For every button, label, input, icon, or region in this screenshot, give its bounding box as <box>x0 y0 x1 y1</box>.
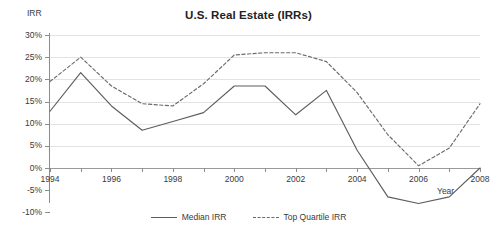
legend-label: Top Quartile IRR <box>284 212 347 222</box>
legend-item[interactable]: Median IRR <box>151 212 227 222</box>
series-layer <box>0 0 497 235</box>
series-line-top-quartile-irr <box>50 53 480 166</box>
legend-swatch-dashed-icon <box>253 217 279 218</box>
chart-legend: Median IRRTop Quartile IRR <box>0 212 497 222</box>
chart-container: U.S. Real Estate (IRRs) IRR Year 30%25%2… <box>0 0 497 235</box>
series-line-median-irr <box>50 73 480 204</box>
legend-swatch-solid-icon <box>151 217 177 218</box>
legend-label: Median IRR <box>182 212 227 222</box>
legend-item[interactable]: Top Quartile IRR <box>253 212 347 222</box>
